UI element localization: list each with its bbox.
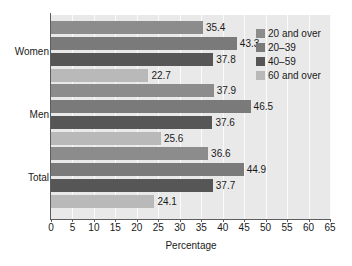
bar	[51, 53, 213, 66]
category-label-men: Men	[30, 109, 49, 120]
tick-label: 5	[60, 222, 84, 234]
bar-value-label: 46.5	[251, 100, 273, 113]
category-label-women: Women	[15, 46, 49, 57]
bar-value-label: 37.9	[214, 84, 236, 97]
bar	[51, 179, 213, 192]
legend-item[interactable]: 20–39	[256, 41, 348, 54]
bar-value-label: 25.6	[161, 132, 183, 145]
bar-value-label: 24.1	[154, 195, 176, 208]
tick-label: 25	[146, 222, 170, 234]
legend-label: 40–59	[268, 56, 296, 67]
bar-chart: 35.443.337.822.737.946.537.625.636.644.9…	[0, 0, 352, 266]
x-axis-title: Percentage	[51, 240, 331, 251]
bar	[51, 147, 208, 160]
legend-swatch-icon	[256, 43, 265, 52]
tick-label: 35	[189, 222, 213, 234]
bar	[51, 116, 212, 129]
tick-label: 10	[82, 222, 106, 234]
bar-value-label: 35.4	[203, 21, 225, 34]
tick-label: 15	[103, 222, 127, 234]
legend: 20 and over20–3940–5960 and over	[256, 27, 348, 83]
bar	[51, 195, 154, 208]
bar	[51, 163, 244, 176]
bar-value-label: 36.6	[208, 147, 230, 160]
bar-value-label: 44.9	[244, 163, 266, 176]
category-label-total: Total	[28, 172, 49, 183]
tick-label: 40	[211, 222, 235, 234]
bar	[51, 69, 148, 82]
x-axis-line	[51, 219, 331, 220]
tick-label: 0	[39, 222, 63, 234]
legend-label: 20 and over	[268, 28, 321, 39]
tick-label: 30	[168, 222, 192, 234]
bar-value-label: 37.8	[213, 53, 235, 66]
legend-item[interactable]: 40–59	[256, 55, 348, 68]
tick-label: 50	[254, 222, 278, 234]
bar	[51, 84, 214, 97]
bar	[51, 132, 161, 145]
legend-item[interactable]: 20 and over	[256, 27, 348, 40]
bar	[51, 37, 237, 50]
tick-label: 65	[318, 222, 342, 234]
legend-item[interactable]: 60 and over	[256, 69, 348, 82]
legend-swatch-icon	[256, 57, 265, 66]
bar	[51, 21, 203, 34]
legend-swatch-icon	[256, 29, 265, 38]
bar-value-label: 37.6	[212, 116, 234, 129]
tick-label: 55	[275, 222, 299, 234]
legend-label: 20–39	[268, 42, 296, 53]
legend-label: 60 and over	[268, 70, 321, 81]
bar	[51, 100, 251, 113]
bar-value-label: 37.7	[213, 179, 235, 192]
tick-label: 60	[297, 222, 321, 234]
tick-label: 20	[125, 222, 149, 234]
bar-value-label: 22.7	[148, 69, 170, 82]
tick-label: 45	[232, 222, 256, 234]
legend-swatch-icon	[256, 71, 265, 80]
